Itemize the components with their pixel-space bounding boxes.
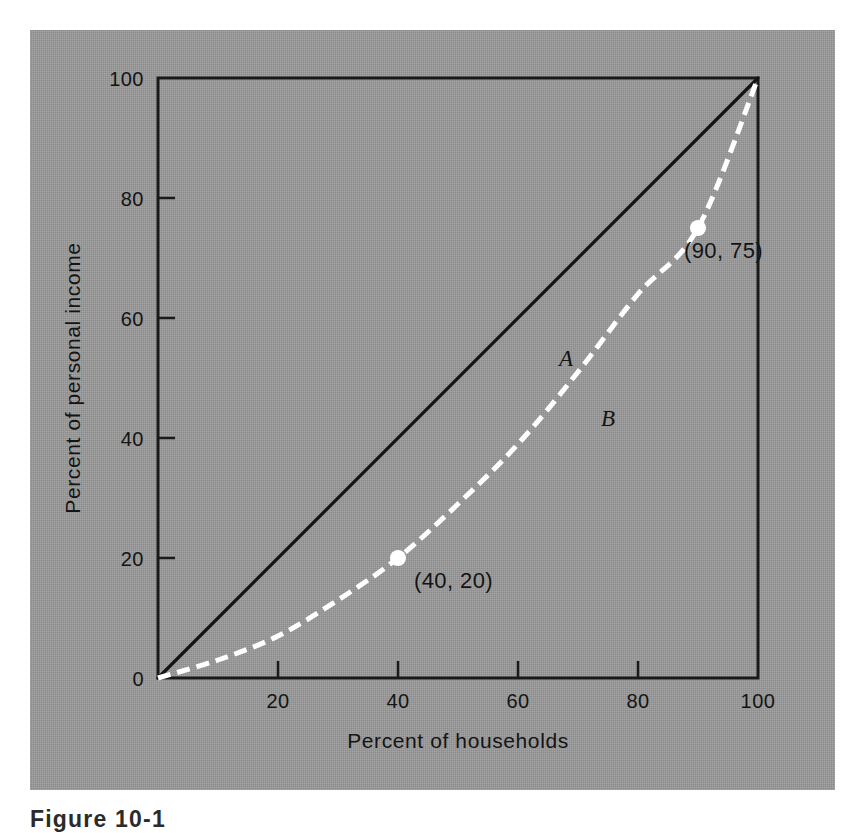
x-tick-label-40: 40 bbox=[386, 690, 409, 712]
x-tick-label-60: 60 bbox=[506, 690, 529, 712]
annotation-point-90-75: (90, 75) bbox=[684, 220, 763, 263]
y-axis-ticks bbox=[158, 198, 175, 558]
data-point-marker bbox=[690, 220, 706, 236]
y-tick-label-40: 40 bbox=[121, 428, 144, 450]
figure-caption: Figure 10-1 bbox=[30, 806, 166, 833]
x-axis-ticks bbox=[278, 661, 638, 678]
x-axis-title: Percent of households bbox=[347, 729, 569, 752]
data-point-label: (90, 75) bbox=[684, 238, 763, 263]
x-tick-labels: 20 40 60 80 100 bbox=[266, 690, 775, 712]
y-tick-label-80: 80 bbox=[121, 188, 144, 210]
curve-label-b: B bbox=[601, 406, 615, 431]
y-tick-label-100: 100 bbox=[109, 68, 144, 90]
y-axis-title: Percent of personal income bbox=[61, 242, 84, 513]
curve-label-a: A bbox=[557, 346, 574, 371]
x-tick-label-100: 100 bbox=[741, 690, 776, 712]
y-tick-label-0: 0 bbox=[132, 668, 144, 690]
annotation-point-40-20: (40, 20) bbox=[390, 550, 493, 593]
x-tick-label-20: 20 bbox=[266, 690, 289, 712]
y-tick-label-60: 60 bbox=[121, 308, 144, 330]
data-point-label: (40, 20) bbox=[414, 568, 493, 593]
y-tick-label-20: 20 bbox=[121, 548, 144, 570]
y-tick-labels: 0 20 40 60 80 100 bbox=[109, 68, 144, 690]
x-tick-label-80: 80 bbox=[626, 690, 649, 712]
data-point-marker bbox=[390, 550, 406, 566]
